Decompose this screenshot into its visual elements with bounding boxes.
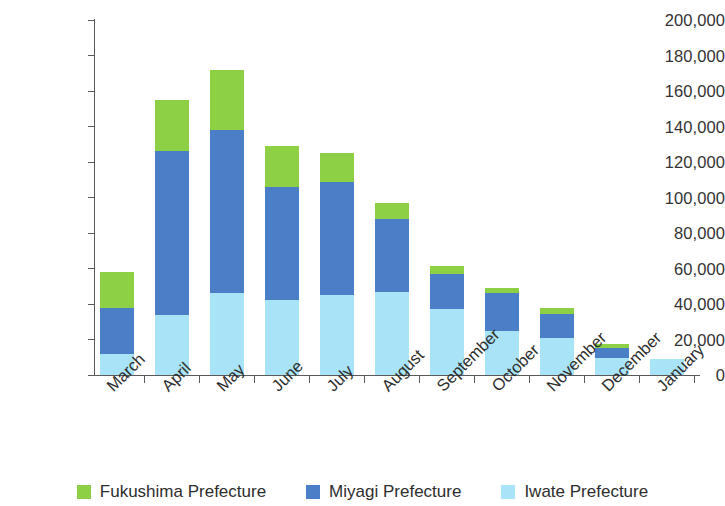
stacked-bar-chart: 020,00040,00060,00080,000100,000120,0001…: [0, 0, 725, 506]
y-tick-mark: [88, 162, 95, 163]
y-tick-mark: [88, 126, 95, 127]
x-tick-mark: [199, 376, 200, 383]
x-tick-mark: [584, 376, 585, 383]
x-tick-mark: [144, 376, 145, 383]
plot-area: [95, 20, 700, 375]
bar-segment-fukushima[interactable]: [100, 272, 134, 308]
bar-segment-miyagi[interactable]: [155, 151, 189, 314]
x-tick-mark: [419, 376, 420, 383]
y-tick-mark: [88, 91, 95, 92]
x-tick-mark: [639, 376, 640, 383]
legend-swatch-icon: [77, 485, 91, 499]
legend-item[interactable]: Iwate Prefecture: [501, 482, 648, 502]
bar-segment-fukushima[interactable]: [210, 70, 244, 130]
x-tick-mark: [694, 376, 695, 383]
bar-segment-iwate[interactable]: [210, 293, 244, 375]
bar-segment-miyagi[interactable]: [375, 219, 409, 292]
y-tick-mark: [88, 197, 95, 198]
bar-segment-miyagi[interactable]: [265, 187, 299, 301]
bar-segment-iwate[interactable]: [320, 295, 354, 375]
x-tick-mark: [364, 376, 365, 383]
y-tick-mark: [88, 233, 95, 234]
y-tick-mark: [88, 20, 95, 21]
legend-swatch-icon: [501, 485, 515, 499]
bar-segment-fukushima[interactable]: [430, 266, 464, 274]
bar-segment-fukushima[interactable]: [485, 288, 519, 293]
bar-segment-fukushima[interactable]: [375, 203, 409, 219]
bar-segment-fukushima[interactable]: [540, 308, 574, 314]
legend-item[interactable]: Fukushima Prefecture: [77, 482, 266, 502]
bar-segment-miyagi[interactable]: [210, 130, 244, 293]
legend-label: Miyagi Prefecture: [329, 482, 461, 502]
bar-segment-miyagi[interactable]: [540, 314, 574, 338]
legend-label: Fukushima Prefecture: [100, 482, 266, 502]
bar-segment-miyagi[interactable]: [430, 274, 464, 310]
y-tick-mark: [88, 339, 95, 340]
legend-swatch-icon: [306, 485, 320, 499]
y-tick-mark: [88, 375, 95, 376]
y-tick-mark: [88, 55, 95, 56]
legend-label: Iwate Prefecture: [524, 482, 648, 502]
x-tick-mark: [309, 376, 310, 383]
chart-legend: Fukushima PrefectureMiyagi PrefectureIwa…: [0, 482, 725, 502]
bar-segment-miyagi[interactable]: [100, 308, 134, 354]
x-tick-mark: [254, 376, 255, 383]
bar-segment-fukushima[interactable]: [265, 146, 299, 187]
x-tick-mark: [529, 376, 530, 383]
bar-segment-fukushima[interactable]: [320, 153, 354, 181]
x-tick-mark: [474, 376, 475, 383]
legend-item[interactable]: Miyagi Prefecture: [306, 482, 461, 502]
y-tick-mark: [88, 268, 95, 269]
bar-segment-miyagi[interactable]: [320, 182, 354, 296]
y-tick-mark: [88, 304, 95, 305]
bar-segment-fukushima[interactable]: [155, 100, 189, 151]
